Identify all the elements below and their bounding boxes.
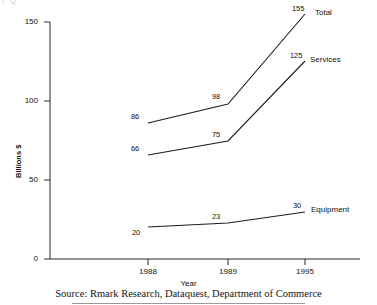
series-line-equipment [148,212,305,227]
y-axis-title: Billions $ [14,145,23,178]
data-label-total-1995: 155 [292,5,304,13]
data-label-services-1995: 125 [290,52,302,60]
series-line-services [148,61,305,155]
y-tick-label-100: 100 [12,97,38,105]
data-label-services-1988: 66 [131,145,139,153]
x-tick-label-1995: 1995 [285,268,325,276]
data-label-total-1988: 86 [131,113,139,121]
y-tick-label-150: 150 [12,18,38,26]
series-label-total: Total [315,9,332,17]
plot-area [0,0,377,305]
x-axis-title: Year [0,279,377,288]
series-label-services: Services [310,56,341,64]
data-label-equipment-1989: 23 [212,213,220,221]
data-label-equipment-1988: 20 [132,229,140,237]
series-label-equipment: Equipment [311,206,349,214]
data-label-equipment-1995: 30 [293,202,301,210]
y-tick-label-0: 0 [12,255,38,263]
caption-divider [72,303,305,304]
series-line-total [148,14,305,123]
data-label-services-1989: 75 [212,131,220,139]
x-tick-label-1989: 1989 [208,268,248,276]
data-label-total-1989: 98 [212,93,220,101]
x-tick-label-1988: 1988 [128,268,168,276]
chart-figure: ( Q 150 100 50 0 Billions $ 1988 1989 19… [0,0,377,305]
source-caption: Source: Rmark Research, Dataquest, Depar… [0,288,377,299]
